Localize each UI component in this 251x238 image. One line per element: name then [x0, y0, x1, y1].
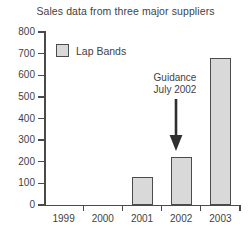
y-axis-tick — [38, 204, 44, 205]
x-axis-tick-label: 1999 — [44, 214, 84, 224]
x-axis-tick-label: 2000 — [83, 214, 123, 224]
x-axis-tick-label: 2003 — [200, 214, 240, 224]
x-axis-tick — [83, 205, 84, 211]
y-axis-tick — [38, 75, 44, 76]
y-axis-tick — [38, 31, 44, 32]
bar-2002 — [171, 157, 192, 205]
y-axis-tick-label: 0 — [0, 200, 35, 210]
y-axis-tick — [38, 53, 44, 54]
x-axis-tick-label: 2002 — [161, 214, 201, 224]
chart-legend: Lap Bands — [56, 44, 126, 57]
bar-chart-figure: Sales data from three major suppliers 01… — [0, 0, 251, 238]
y-axis-tick-label: 500 — [0, 92, 35, 102]
y-axis-tick — [38, 118, 44, 119]
legend-swatch-lap-bands — [56, 44, 69, 57]
x-axis-tick — [161, 205, 162, 211]
x-axis-tick — [239, 205, 240, 211]
y-axis-tick — [38, 96, 44, 97]
bar-2001 — [132, 177, 153, 205]
annotation-line-2: July 2002 — [141, 84, 209, 96]
y-axis-tick-label: 100 — [0, 178, 35, 188]
y-axis-tick — [38, 183, 44, 184]
y-axis-tick-label: 800 — [0, 27, 35, 37]
guidance-annotation-text: Guidance July 2002 — [141, 72, 209, 95]
y-axis-tick — [38, 161, 44, 162]
y-axis-tick-label: 700 — [0, 49, 35, 59]
y-axis-tick-label: 200 — [0, 157, 35, 167]
legend-label-lap-bands: Lap Bands — [76, 45, 126, 57]
down-arrow-icon — [169, 99, 183, 151]
x-axis-tick-label: 2001 — [122, 214, 162, 224]
chart-title: Sales data from three major suppliers — [0, 5, 251, 17]
y-axis-tick-label: 300 — [0, 135, 35, 145]
y-axis-tick-label: 600 — [0, 70, 35, 80]
x-axis-tick — [200, 205, 201, 211]
y-axis-line — [44, 31, 46, 206]
x-axis-tick — [122, 205, 123, 211]
y-axis-tick — [38, 139, 44, 140]
y-axis-tick-label: 400 — [0, 114, 35, 124]
annotation-line-1: Guidance — [141, 72, 209, 84]
bar-2003 — [210, 58, 231, 205]
